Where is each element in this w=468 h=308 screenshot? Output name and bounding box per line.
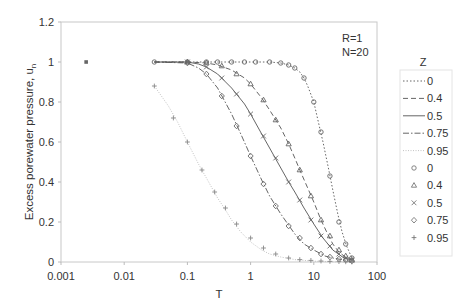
y-tick-label: 0 bbox=[48, 256, 54, 268]
x-tick-label: 0.01 bbox=[113, 270, 134, 282]
legend-label: 0 bbox=[427, 75, 433, 87]
annotation-n: N=20 bbox=[342, 46, 369, 58]
y-tick-label: 0.4 bbox=[39, 176, 54, 188]
legend-entry: 0.75 bbox=[411, 214, 448, 226]
legend-marker-swatch bbox=[411, 217, 416, 223]
legend-label: 0 bbox=[427, 162, 433, 174]
legend-title: Z bbox=[420, 56, 427, 68]
y-tick-label: 0.6 bbox=[39, 136, 54, 148]
y-tick-label: 0.8 bbox=[39, 96, 54, 108]
x-tick-label: 100 bbox=[368, 270, 386, 282]
legend-label: 0.4 bbox=[427, 179, 442, 191]
annotation-r: R=1 bbox=[342, 32, 363, 44]
legend-marker-swatch bbox=[411, 183, 416, 188]
legend-entry: 0 bbox=[412, 162, 433, 174]
y-axis-ticks: 00.20.40.60.811.2 bbox=[39, 16, 61, 268]
data-point-circle bbox=[84, 60, 88, 64]
legend-label: 0.75 bbox=[427, 214, 448, 226]
legend-marker-swatch bbox=[412, 200, 417, 205]
legend-entry: 0.75 bbox=[403, 127, 448, 139]
chart: 00.20.40.60.811.2 0.0010.010.1110100 T E… bbox=[0, 0, 468, 308]
plot-area bbox=[61, 22, 377, 262]
legend-entry: 0.4 bbox=[411, 179, 442, 191]
legend-label: 0.4 bbox=[427, 92, 442, 104]
y-axis-title-sub: n bbox=[29, 64, 38, 68]
x-tick-label: 1 bbox=[248, 270, 254, 282]
x-tick-label: 10 bbox=[308, 270, 320, 282]
legend-entry: 0.95 bbox=[403, 145, 448, 157]
legend-marker-swatch bbox=[412, 166, 416, 170]
y-axis-title-main: Excess porewater pressure, u bbox=[23, 68, 35, 220]
legend-label: 0.5 bbox=[427, 197, 442, 209]
legend-label: 0.95 bbox=[427, 145, 448, 157]
legend-entry: 0.5 bbox=[403, 110, 442, 122]
x-tick-label: 0.001 bbox=[47, 270, 75, 282]
y-tick-label: 0.2 bbox=[39, 216, 54, 228]
legend-label: 0.75 bbox=[427, 127, 448, 139]
legend-entries: 00.40.50.750.9500.40.50.750.95 bbox=[403, 75, 448, 244]
y-tick-label: 1 bbox=[48, 56, 54, 68]
y-tick-label: 1.2 bbox=[39, 16, 54, 28]
legend-entry: 0.4 bbox=[403, 92, 442, 104]
legend-box bbox=[400, 70, 452, 256]
y-axis-title: Excess porewater pressure, un bbox=[23, 64, 38, 221]
legend-entry: 0 bbox=[403, 75, 433, 87]
legend-label: 0.95 bbox=[427, 232, 448, 244]
x-axis-title: T bbox=[215, 288, 222, 300]
legend-label: 0.5 bbox=[427, 110, 442, 122]
x-tick-label: 0.1 bbox=[180, 270, 195, 282]
x-axis-ticks: 0.0010.010.1110100 bbox=[47, 262, 386, 282]
legend-entry: 0.5 bbox=[412, 197, 443, 209]
legend-marker-swatch bbox=[412, 235, 417, 240]
legend: Z 00.40.50.750.9500.40.50.750.95 bbox=[400, 56, 452, 256]
legend-entry: 0.95 bbox=[412, 232, 449, 244]
